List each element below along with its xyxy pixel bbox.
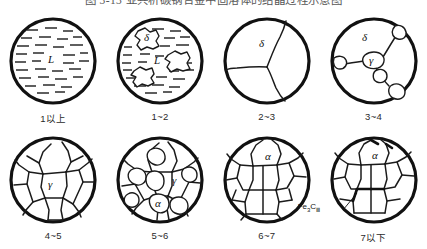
panel-2-circle: δ L: [112, 13, 208, 109]
figure-title: 图 3-13 亚共析碳钢合金中固溶体的结晶过程示意图: [0, 0, 427, 7]
figure-title-clip: 图 3-13 亚共析碳钢合金中固溶体的结晶过程示意图: [0, 0, 427, 9]
panel-2-caption: 1~2: [152, 111, 169, 122]
panel-3-delta-grains: δ 2~3: [214, 12, 321, 131]
carbide-callout: Fe3CⅢ: [298, 202, 321, 213]
panel-2-liquid-delta: δ L 1~2: [107, 12, 214, 131]
panel-8-circle: α Fe3CⅢ: [326, 132, 422, 228]
panel-4-delta-gamma: δ γ 3~4: [320, 12, 427, 131]
panel-4-circle: δ γ: [326, 13, 422, 109]
panel-1-caption: 1以上: [40, 111, 66, 125]
panel-6-caption: 5~6: [152, 230, 169, 241]
phase-label-gamma: γ: [172, 174, 177, 186]
delta-blob-b: [165, 51, 190, 72]
panel-grid: L 1以上: [0, 12, 427, 249]
phase-label-alpha: α: [155, 197, 161, 209]
phase-label-delta: δ: [259, 37, 265, 49]
panel-6-gamma-alpha: γ α 5~6: [107, 131, 214, 249]
panel-3-circle: δ: [219, 13, 315, 109]
phase-label-alpha: α: [265, 150, 271, 162]
phase-label-alpha: α: [372, 149, 378, 161]
panel-8-alpha-carbide: α Fe3CⅢ 7以下: [320, 131, 427, 249]
carbide-label-fe: Fe: [298, 202, 307, 211]
phase-label-L: L: [47, 53, 54, 65]
phase-label-delta: δ: [362, 31, 368, 43]
panel-5-gamma-grains: γ 4~5: [0, 131, 107, 249]
panel-1-circle: L: [5, 13, 101, 109]
carbide-label-roman3: Ⅲ: [316, 206, 320, 212]
panel-7-circle: α: [219, 132, 315, 228]
phase-label-gamma: γ: [369, 54, 374, 66]
panel-6-circle: γ α: [112, 132, 208, 228]
panel-4-caption: 3~4: [365, 111, 382, 122]
panel-5-circle: γ: [5, 132, 101, 228]
panel-5-caption: 4~5: [45, 230, 62, 241]
phase-label-L: L: [153, 54, 160, 66]
phase-label-gamma: γ: [48, 178, 53, 190]
panel-1-liquid: L 1以上: [0, 12, 107, 131]
phase-label-delta: δ: [144, 31, 150, 43]
delta-blob-c: [131, 67, 154, 87]
panel-8-caption: 7以下: [361, 230, 387, 244]
panel-7-caption: 6~7: [258, 230, 275, 241]
panel-3-caption: 2~3: [258, 111, 275, 122]
panel-7-alpha-grains: α 6~7: [214, 131, 321, 249]
